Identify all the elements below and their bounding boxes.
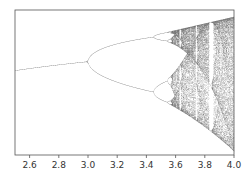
x-tick-label: 4.0 [227,160,242,170]
x-tick-label: 3.2 [110,160,124,170]
x-tick-label: 3.8 [198,160,213,170]
x-tick-label: 3.6 [168,160,183,170]
x-tick-label: 2.6 [22,160,37,170]
x-axis-ticks: 2.62.83.03.23.43.63.84.0 [22,155,241,170]
bifurcation-chart: 2.62.83.03.23.43.63.84.0 [0,0,250,177]
x-tick-label: 2.8 [52,160,67,170]
x-tick-label: 3.0 [81,160,96,170]
x-tick-label: 3.4 [139,160,154,170]
